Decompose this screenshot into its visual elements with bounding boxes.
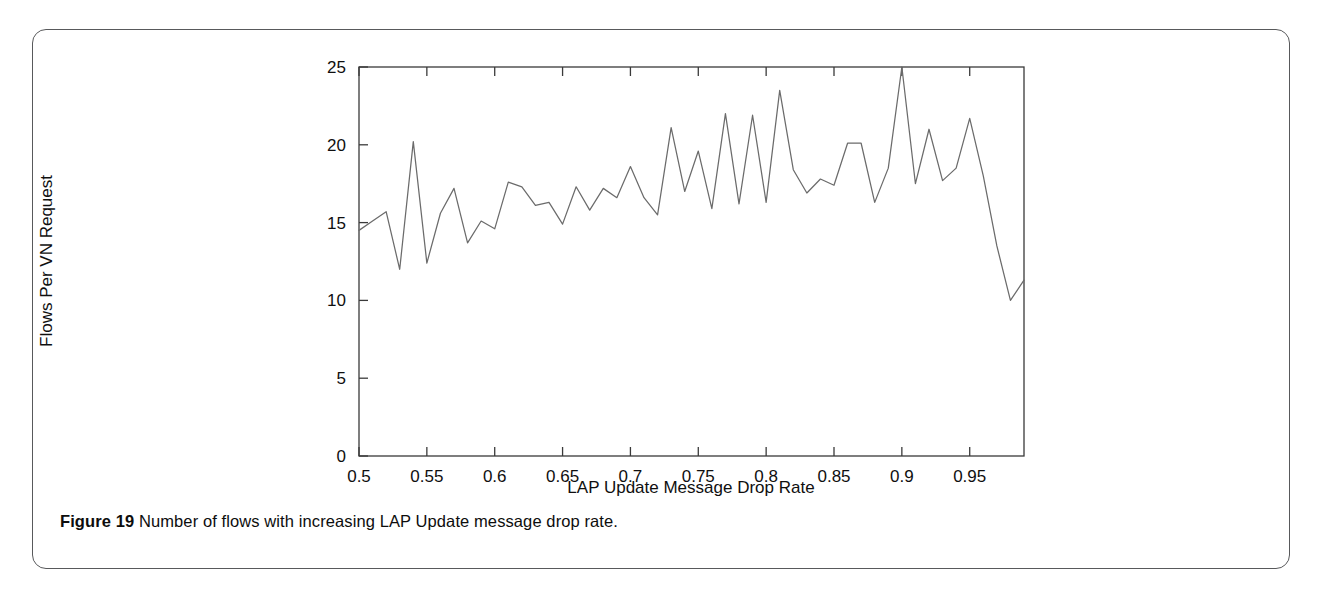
y-axis-ticks <box>359 67 368 456</box>
y-tick-label: 25 <box>327 58 346 77</box>
data-series-line <box>359 67 1024 300</box>
x-axis-ticks <box>359 67 970 456</box>
y-tick-label: 5 <box>337 369 346 388</box>
x-tick-label: 0.95 <box>953 467 986 486</box>
plot-frame <box>359 67 1024 456</box>
x-tick-label: 0.85 <box>817 467 850 486</box>
y-tick-label: 20 <box>327 136 346 155</box>
figure-card: 0510152025 0.50.550.60.650.70.750.80.850… <box>32 29 1290 569</box>
y-axis-tick-labels: 0510152025 <box>327 58 346 466</box>
y-tick-label: 15 <box>327 214 346 233</box>
x-axis-title: LAP Update Message Drop Rate <box>567 478 814 497</box>
x-tick-label: 0.9 <box>890 467 914 486</box>
y-tick-label: 10 <box>327 291 346 310</box>
line-chart: 0510152025 0.50.550.60.650.70.750.80.850… <box>33 30 1291 500</box>
figure-page: 0510152025 0.50.550.60.650.70.750.80.850… <box>0 0 1325 611</box>
y-tick-label: 0 <box>337 447 346 466</box>
chart-area: 0510152025 0.50.550.60.650.70.750.80.850… <box>33 30 1291 500</box>
figure-caption: Figure 19 Number of flows with increasin… <box>60 510 1260 532</box>
y-axis-title: Flows Per VN Request <box>37 175 56 347</box>
x-tick-label: 0.55 <box>410 467 443 486</box>
figure-caption-label: Figure 19 <box>60 512 134 530</box>
x-tick-label: 0.5 <box>347 467 371 486</box>
x-tick-label: 0.6 <box>483 467 507 486</box>
figure-caption-body: Number of flows with increasing LAP Upda… <box>139 512 618 530</box>
